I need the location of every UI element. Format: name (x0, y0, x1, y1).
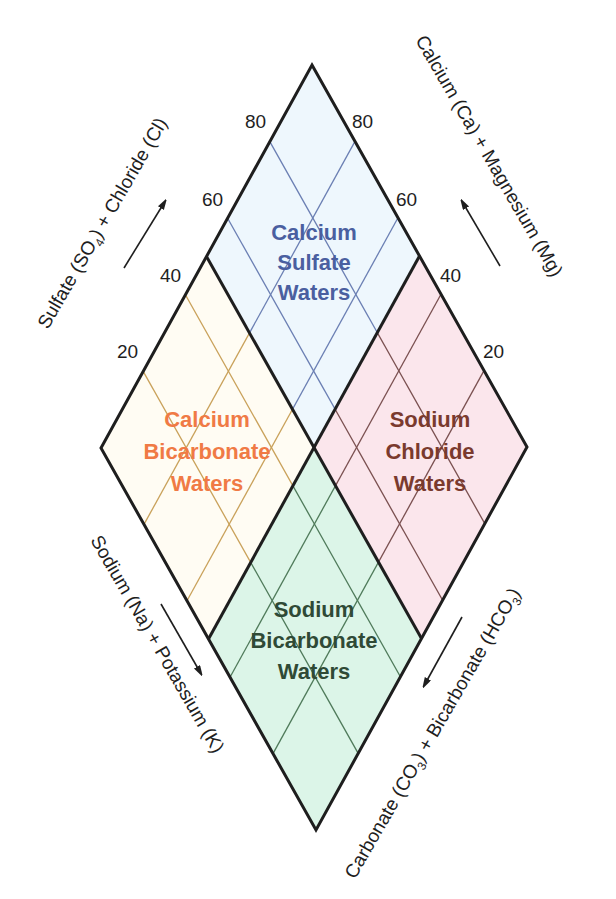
svg-text:Sulfate: Sulfate (277, 250, 350, 275)
arrow-upper-left (124, 203, 164, 268)
piper-diamond-diagram: Calcium Sulfate Waters Calcium Bicarbona… (0, 0, 616, 899)
svg-text:60: 60 (396, 189, 417, 210)
axis-label-upper-left: Sulfate (SO4) + Chloride (Cl) (33, 114, 174, 334)
svg-text:Bicarbonate: Bicarbonate (250, 628, 377, 653)
svg-text:20: 20 (483, 341, 504, 362)
region-label-top: Calcium Sulfate Waters (271, 220, 357, 305)
svg-text:Waters: Waters (278, 659, 351, 684)
svg-text:60: 60 (202, 189, 223, 210)
arrow-upper-right (463, 203, 500, 266)
region-label-right: Sodium Chloride Waters (385, 407, 474, 496)
svg-text:Bicarbonate: Bicarbonate (143, 439, 270, 464)
svg-text:20: 20 (117, 341, 138, 362)
svg-text:Waters: Waters (394, 471, 467, 496)
svg-text:80: 80 (352, 111, 373, 132)
svg-text:Chloride: Chloride (385, 439, 474, 464)
svg-text:80: 80 (245, 111, 266, 132)
svg-text:40: 40 (440, 265, 461, 286)
axis-label-upper-right: Calcium (Ca) + Magnesium (Mg) (412, 32, 568, 281)
svg-text:Calcium: Calcium (164, 407, 250, 432)
svg-text:Sodium: Sodium (390, 407, 471, 432)
svg-text:Waters: Waters (278, 280, 351, 305)
svg-text:Waters: Waters (171, 471, 244, 496)
svg-text:Calcium: Calcium (271, 220, 357, 245)
svg-text:Sodium: Sodium (274, 597, 355, 622)
svg-text:40: 40 (160, 265, 181, 286)
